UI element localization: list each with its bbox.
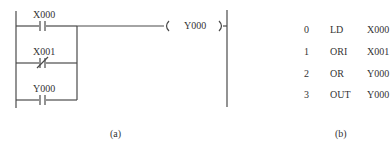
opcode: OUT <box>330 89 351 101</box>
operand: X001 <box>367 46 389 58</box>
step-number: 1 <box>304 46 309 58</box>
step-number: 3 <box>304 89 309 101</box>
operand: Y000 <box>367 89 389 101</box>
operand: Y000 <box>367 68 389 80</box>
contact-label-x000: X000 <box>33 10 55 20</box>
ladder-caption: (a) <box>110 129 121 139</box>
instruction-list-caption: (b) <box>335 129 347 139</box>
contact-x001-normally-closed-icon <box>16 57 77 68</box>
contact-x000-normally-open-icon <box>16 21 77 31</box>
contact-label-x001: X001 <box>33 47 55 57</box>
opcode: OR <box>330 68 344 80</box>
contact-y000-normally-open-icon <box>16 95 77 105</box>
operand: X000 <box>367 24 389 36</box>
step-number: 2 <box>304 68 309 80</box>
opcode: ORI <box>330 46 347 58</box>
contact-label-y000: Y000 <box>33 84 55 94</box>
opcode: LD <box>330 24 343 36</box>
step-number: 0 <box>304 24 309 36</box>
coil-label-y000: Y000 <box>184 21 206 31</box>
